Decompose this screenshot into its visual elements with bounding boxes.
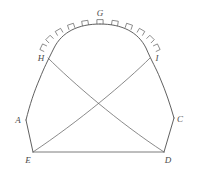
label-A: A: [14, 115, 21, 125]
arc-tooth-10: [147, 35, 154, 42]
label-C: C: [177, 114, 184, 124]
arc-tooth-11: [153, 44, 160, 51]
label-D: D: [164, 155, 172, 165]
label-H: H: [37, 53, 45, 63]
figure-container: GHIACED: [0, 0, 197, 175]
right-profile-curve: [100, 24, 174, 118]
base-polygon-group: [26, 118, 174, 152]
side-a-to-e: [26, 120, 33, 152]
chord-h-to-d: [48, 58, 164, 152]
label-E: E: [24, 155, 31, 165]
arc-tooth-1: [40, 44, 47, 51]
side-c-to-d: [164, 118, 174, 152]
label-G: G: [97, 8, 104, 18]
arc-tooth-6: [97, 20, 103, 24]
chord-i-to-e: [33, 58, 150, 152]
label-I: I: [155, 53, 160, 63]
arch-diagram: GHIACED: [0, 0, 197, 175]
crossing-chords-group: [33, 58, 164, 152]
arch-outline-group: [26, 24, 174, 120]
point-labels-group: GHIACED: [14, 8, 184, 165]
arc-tooth-3: [55, 28, 63, 35]
arc-tooth-9: [137, 28, 145, 35]
arc-tooth-2: [46, 35, 53, 42]
